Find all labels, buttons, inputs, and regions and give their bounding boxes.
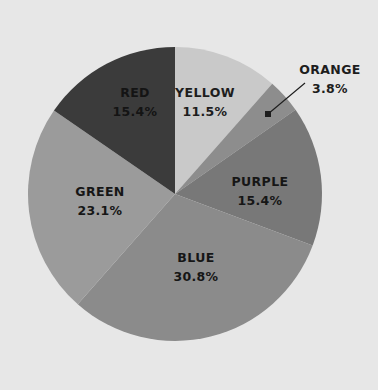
slice-percent-label-yellow: 11.5% <box>183 104 228 119</box>
pie-chart-canvas: YELLOW11.5%ORANGE3.8%PURPLE15.4%BLUE30.8… <box>0 0 378 390</box>
slice-percent-label-blue: 30.8% <box>174 269 219 284</box>
slice-name-label-orange: ORANGE <box>299 62 361 77</box>
slice-percent-label-purple: 15.4% <box>238 193 283 208</box>
slice-percent-label-orange: 3.8% <box>312 81 348 96</box>
slice-name-label-purple: PURPLE <box>231 174 288 189</box>
slice-percent-label-green: 23.1% <box>78 203 123 218</box>
slice-name-label-red: RED <box>120 85 150 100</box>
slice-name-label-yellow: YELLOW <box>174 85 235 100</box>
slice-name-label-blue: BLUE <box>177 250 214 265</box>
slice-percent-label-red: 15.4% <box>113 104 158 119</box>
pie-chart-figure: YELLOW11.5%ORANGE3.8%PURPLE15.4%BLUE30.8… <box>0 0 378 390</box>
slice-name-label-green: GREEN <box>75 184 124 199</box>
leader-dot-orange <box>265 111 271 117</box>
